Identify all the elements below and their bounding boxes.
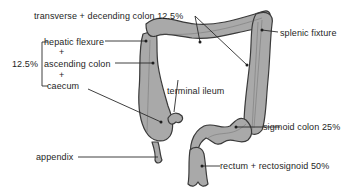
label-sigmoid-colon: sigmoid colon 25% [263,122,340,132]
label-terminal-ileum: terminal ileum [167,86,224,96]
label-plus-1: + [59,47,64,57]
label-transverse-descending-colon: transverse + decending colon 12.5% [34,11,183,21]
terminal-ileum-shape [168,113,183,124]
rectum-shape [188,147,208,186]
label-caecum: caecum [47,81,79,91]
label-hepatic-flexure: hepatic flexure [44,37,104,47]
label-plus-2: + [59,70,64,80]
appendix-shape [152,142,162,163]
label-splenic-flexure: splenic fixture [280,28,337,38]
colon-diagram: transverse + decending colon 12.5% hepat… [0,0,357,189]
label-ascending-colon: ascending colon [44,59,111,69]
label-rectum-rectosignoid: rectum + rectosignoid 50% [220,161,329,171]
label-group-percent: 12.5% [12,59,38,69]
label-appendix: appendix [36,152,73,162]
